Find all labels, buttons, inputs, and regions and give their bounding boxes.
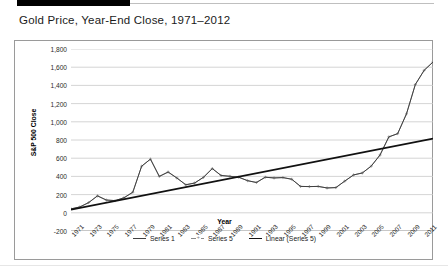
legend-item[interactable]: +Series 5 xyxy=(191,234,233,242)
figure-title: Gold Price, Year-End Close, 1971–2012 xyxy=(19,14,230,26)
series-line-series-5 xyxy=(71,62,433,209)
legend-label: Series 1 xyxy=(150,235,175,242)
y-tick-label: 1,200 xyxy=(37,100,67,107)
legend-swatch-icon xyxy=(133,234,146,242)
chart-svg xyxy=(71,49,433,231)
legend-swatch-icon xyxy=(249,234,262,242)
x-axis-title: Year xyxy=(15,218,434,225)
chart-legend: Series 1+Series 5Linear (Series 5) xyxy=(15,234,434,242)
y-tick-label: 800 xyxy=(37,137,67,144)
footer-rule xyxy=(0,265,448,266)
legend-item[interactable]: Series 1 xyxy=(133,234,175,242)
header-rule-black xyxy=(17,0,130,6)
y-tick-label: 0 xyxy=(37,209,67,216)
y-tick-label: 1,800 xyxy=(37,46,67,53)
y-tick-label: 1,600 xyxy=(37,64,67,71)
y-tick-label: 1,000 xyxy=(37,118,67,125)
y-axis-ticks: 1,8001,6001,4001,2001,0008006004002000-2… xyxy=(31,49,67,231)
plot-area xyxy=(71,49,433,231)
legend-label: Series 5 xyxy=(208,235,233,242)
y-tick-label: 400 xyxy=(37,173,67,180)
legend-label: Linear (Series 5) xyxy=(266,235,316,242)
header-rule-thin xyxy=(130,3,434,4)
cross-marker-icon: + xyxy=(196,235,201,240)
chart-frame: S&P 500 Close 1,8001,6001,4001,2001,0008… xyxy=(14,40,433,260)
y-tick-label: 1,400 xyxy=(37,82,67,89)
series-line-series-1 xyxy=(71,62,433,209)
legend-item[interactable]: Linear (Series 5) xyxy=(249,234,316,242)
legend-swatch-icon: + xyxy=(191,234,204,242)
y-tick-label: 200 xyxy=(37,191,67,198)
y-tick-label: 600 xyxy=(37,155,67,162)
trendline-linear-series-5- xyxy=(71,139,433,210)
